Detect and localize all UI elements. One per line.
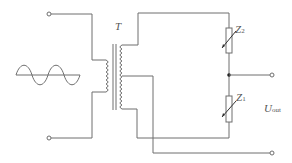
secondary-bottom-wire [122,109,229,138]
z2-label: Z2 [235,23,245,35]
input-bottom-wire [47,92,106,140]
center-tap-wire [122,76,270,153]
secondary-top-wire [122,13,229,45]
z2-variable-resistor-icon [222,28,236,96]
transformer-label: T [115,20,121,32]
secondary-winding [120,45,122,109]
output-top-terminal [270,73,274,77]
output-bottom-terminal [270,151,274,155]
circuit-diagram [0,0,292,163]
uout-label: Uout [264,102,281,114]
primary-winding [106,60,108,92]
sine-wave-icon [16,65,80,85]
z1-label: Z1 [236,91,246,103]
input-top-wire [47,12,106,60]
z1-variable-resistor-icon [222,96,236,122]
